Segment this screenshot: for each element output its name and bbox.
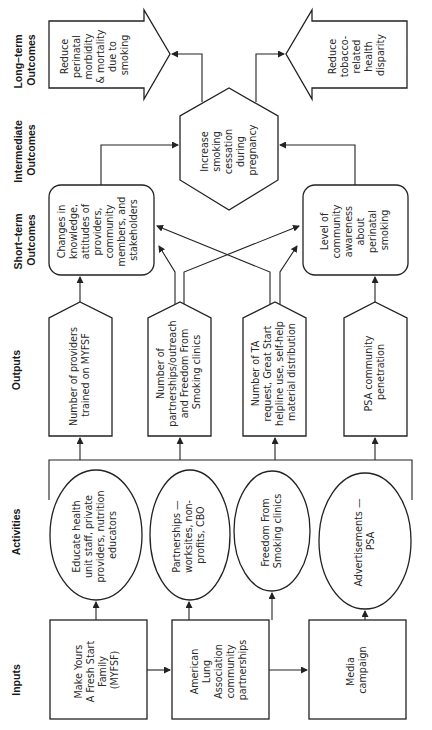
arrow-output3-to-awareness xyxy=(280,246,297,304)
output-ta-requests: Number of TA request, Great Start helpli… xyxy=(243,302,306,436)
activity-advertisements: Advertisements — PSA xyxy=(319,473,411,609)
arrow-output3-to-knowledge xyxy=(157,226,270,304)
short-term-outcome-awareness: Level of community awareness about perin… xyxy=(303,185,408,275)
short-term-outcome-knowledge: Changes in knowledge, attitudes of provi… xyxy=(49,185,154,275)
output-providers-trained: Number of providers trained on MYFSF xyxy=(49,302,112,436)
row-label-intermediate: Intermediate Outcomes xyxy=(12,117,37,182)
svg-text:Long–term Outcomes: Long–term Outcomes xyxy=(12,31,37,88)
row-label-activities: Activities xyxy=(10,508,22,555)
svg-text:Short–term Outcomes: Short–term Outcomes xyxy=(12,211,37,270)
svg-text:American Lung Asso: American Lung Association community part… xyxy=(189,640,248,700)
output-partnerships: Number of partnerships/outreach and Free… xyxy=(148,302,211,436)
input-american-lung-association: American Lung Association community part… xyxy=(172,620,269,719)
svg-text:PSA community penetratio: PSA community penetration xyxy=(363,333,386,412)
svg-text:Activities: Activities xyxy=(10,508,22,555)
svg-text:Outputs: Outputs xyxy=(10,350,22,390)
arrow-hex-to-perinatal xyxy=(172,54,202,102)
long-term-outcome-perinatal: Reduce perinatal morbidity & mortality d… xyxy=(49,10,170,99)
svg-text:Inputs: Inputs xyxy=(10,664,22,696)
arrow-knowledge-to-hex xyxy=(101,145,178,185)
row-label-long-term: Long–term Outcomes xyxy=(12,31,37,88)
row-label-outputs: Outputs xyxy=(10,350,22,390)
svg-text:Intermediate Outcomes: Intermediate Outcomes xyxy=(12,117,37,182)
activity-educate: Educate health unit staff, private provi… xyxy=(50,470,142,600)
svg-text:Reduce tobacco- re: Reduce tobacco- related health disparity xyxy=(327,33,386,78)
arrow-output2-to-knowledge xyxy=(159,246,175,304)
input-media-campaign: Media campaign xyxy=(309,620,406,719)
svg-text:Increase smoking c: Increase smoking cessation during pregna… xyxy=(199,124,258,175)
arrow-awareness-to-hex xyxy=(280,145,355,185)
arrow-hex-to-disparity xyxy=(256,54,284,102)
activity-partnerships: Partnerships — worksites, non- profits, … xyxy=(150,470,230,600)
input-myfsf: Make Yours A Fresh Start Family (MYFSF) xyxy=(50,620,147,719)
svg-text:Changes in knowledge,: Changes in knowledge, attitudes of provi… xyxy=(56,194,139,267)
long-term-outcome-disparity: Reduce tobacco- related health disparity xyxy=(286,10,407,99)
intermediate-outcome: Increase smoking cessation during pregna… xyxy=(180,88,278,210)
logic-model-diagram: Long–term Outcomes Intermediate Outcomes… xyxy=(0,0,432,730)
arrow-output2-to-awareness xyxy=(184,226,299,304)
output-psa-penetration: PSA community penetration xyxy=(344,302,407,436)
activity-freedom-from-smoking: Freedom From Smoking clinics xyxy=(234,471,310,591)
svg-text:Partnerships — worksites: Partnerships — worksites, non- profits, … xyxy=(171,497,206,573)
svg-text:Freedom From Smoking cli: Freedom From Smoking clinics xyxy=(260,494,283,568)
svg-text:Number of providers trai: Number of providers trained on MYFSF xyxy=(68,324,91,426)
row-label-short-term: Short–term Outcomes xyxy=(12,211,37,270)
row-label-inputs: Inputs xyxy=(10,664,22,696)
